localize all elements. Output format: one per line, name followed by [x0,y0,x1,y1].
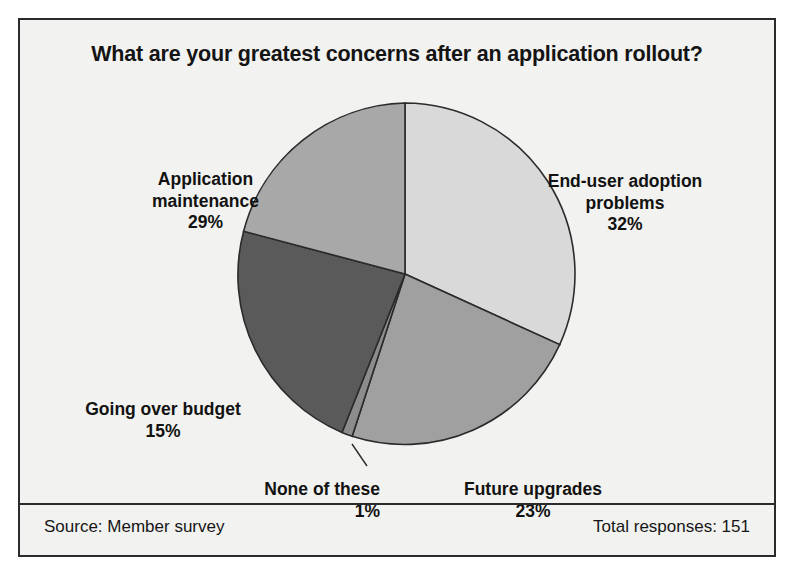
pie-chart-svg [20,20,774,555]
chart-footer: Source: Member survey Total responses: 1… [20,503,774,555]
pie-label-text: Future upgrades [464,479,602,499]
pie-label-text: Going over budget [85,399,241,419]
pie-label-text: None of these [264,479,380,499]
pie-label-end-user-adoption-problems: End-user adoption problems 32% [520,150,730,257]
footer-source-text: Source: Member survey [44,517,224,537]
footer-total-responses-text: Total responses: 151 [593,517,750,537]
pie-label-percent: 32% [520,214,730,235]
pie-chart-area [20,20,774,555]
chart-frame: What are your greatest concerns after an… [18,18,776,557]
pie-label-text: End-user adoption problems [548,171,703,212]
pie-label-going-over-budget: Going over budget 15% [48,378,278,463]
pie-label-percent: 15% [48,421,278,442]
pie-label-application-maintenance: Application maintenance 29% [98,148,313,255]
pie-label-percent: 29% [98,212,313,233]
pie-label-text: Application maintenance [152,169,259,210]
footer-divider [20,503,774,505]
